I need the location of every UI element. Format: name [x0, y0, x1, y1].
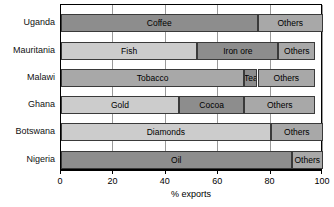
segment-nigeria-oil: Oil: [61, 151, 292, 169]
category-label-malawi: Malawi: [27, 72, 55, 82]
x-axis-line: [60, 170, 322, 171]
category-label-nigeria: Nigeria: [26, 154, 55, 164]
category-label-mauritania: Mauritania: [13, 45, 55, 55]
segment-botswana-others: Others: [271, 123, 323, 141]
x-tick-40: [165, 170, 166, 174]
segment-nigeria-others: Others: [292, 151, 323, 169]
segment-label: Others: [274, 74, 300, 83]
category-label-botswana: Botswana: [15, 126, 55, 136]
segment-malawi-tea: Tea: [244, 69, 257, 87]
segment-label: Cocoa: [199, 101, 224, 110]
x-tick-100: [321, 170, 322, 174]
segment-mauritania-others: Others: [278, 42, 315, 60]
x-tick-label-20: 20: [107, 176, 117, 186]
x-tick-20: [112, 170, 113, 174]
segment-label: Oil: [171, 156, 181, 165]
segment-label: Iron ore: [223, 47, 252, 56]
segment-mauritania-fish: Fish: [61, 42, 197, 60]
segment-ghana-gold: Gold: [61, 96, 179, 114]
bar-mauritania: FishIron oreOthers: [61, 42, 323, 60]
bar-malawi: TobaccoTeaOthers: [61, 69, 323, 87]
segment-label: Others: [284, 47, 310, 56]
x-tick-label-60: 60: [212, 176, 222, 186]
segment-label: Coffee: [147, 19, 172, 28]
segment-label: Diamonds: [147, 128, 185, 137]
x-tick-0: [60, 170, 61, 174]
x-axis-title: % exports: [0, 189, 334, 199]
x-tick-label-80: 80: [265, 176, 275, 186]
category-label-uganda: Uganda: [23, 17, 55, 27]
plot-area: CoffeeOthersFishIron oreOthersTobaccoTea…: [60, 4, 322, 170]
bar-botswana: DiamondsOthers: [61, 123, 323, 141]
segment-label: Others: [267, 101, 293, 110]
segment-ghana-others: Others: [244, 96, 315, 114]
stacked-bar-chart: UgandaMauritaniaMalawiGhanaBotswanaNiger…: [0, 0, 334, 207]
x-tick-60: [217, 170, 218, 174]
segment-label: Others: [277, 19, 303, 28]
segment-malawi-tobacco: Tobacco: [61, 69, 244, 87]
bar-uganda: CoffeeOthers: [61, 14, 323, 32]
segment-malawi-others: Others: [258, 69, 316, 87]
segment-label: Others: [295, 156, 321, 165]
segment-label: Tobacco: [137, 74, 169, 83]
x-tick-label-40: 40: [160, 176, 170, 186]
segment-mauritania-iron-ore: Iron ore: [197, 42, 278, 60]
segment-label: Others: [284, 128, 310, 137]
x-tick-80: [270, 170, 271, 174]
category-label-ghana: Ghana: [28, 99, 55, 109]
segment-ghana-cocoa: Cocoa: [179, 96, 245, 114]
bar-ghana: GoldCocoaOthers: [61, 96, 323, 114]
x-tick-label-0: 0: [57, 176, 62, 186]
segment-botswana-diamonds: Diamonds: [61, 123, 271, 141]
segment-label: Tea: [244, 74, 257, 83]
bar-nigeria: OilOthers: [61, 151, 323, 169]
segment-label: Gold: [111, 101, 129, 110]
x-tick-label-100: 100: [314, 176, 329, 186]
segment-uganda-others: Others: [258, 14, 324, 32]
segment-label: Fish: [121, 47, 137, 56]
segment-uganda-coffee: Coffee: [61, 14, 258, 32]
